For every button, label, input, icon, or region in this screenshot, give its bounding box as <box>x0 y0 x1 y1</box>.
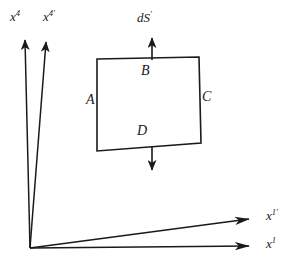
axis-label-x1-prime: x1′ <box>266 209 278 222</box>
axis-line-x4 <box>25 40 30 248</box>
vertex-label-d: D <box>137 124 147 138</box>
axis-line-x4-prime <box>30 42 46 248</box>
vertex-label-c: C <box>202 90 211 104</box>
axis-label-x4-prime: x4′ <box>43 10 55 23</box>
axis-label-x1: x1 <box>266 237 276 250</box>
diagram-vector-layer <box>0 0 297 263</box>
figure-canvas: x4 x4′ x1′ x1 dS′ A B C D <box>0 0 297 263</box>
axis-line-x1-prime <box>30 219 249 248</box>
vertex-label-b: B <box>141 64 150 78</box>
axis-line-x1 <box>30 246 249 248</box>
vertex-label-a: A <box>86 93 95 107</box>
axis-label-x4: x4 <box>10 10 20 23</box>
surface-element-label: dS′ <box>137 11 152 24</box>
